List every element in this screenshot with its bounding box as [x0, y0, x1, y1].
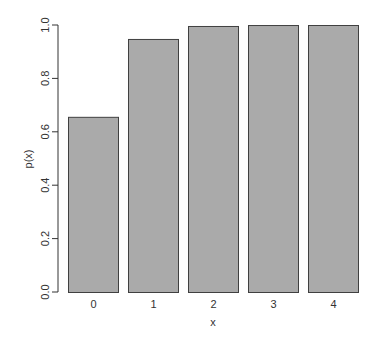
y-tick-label: 0.0 [39, 284, 51, 299]
x-tick-labels: 01234 [90, 298, 336, 310]
y-tick-label: 0.4 [39, 178, 51, 193]
y-tick-label: 1.0 [39, 17, 51, 32]
y-axis: 0.00.20.40.60.81.0 [39, 17, 58, 299]
y-tick-label: 0.8 [39, 71, 51, 86]
x-tick-label: 1 [150, 298, 156, 310]
bar-0 [69, 117, 119, 292]
x-tick-label: 3 [270, 298, 276, 310]
bars [69, 26, 359, 293]
x-tick-label: 4 [330, 298, 336, 310]
y-axis-label: p(x) [22, 150, 34, 169]
x-tick-label: 2 [210, 298, 216, 310]
x-axis-label: x [210, 316, 216, 328]
bar-chart: 0.00.20.40.60.81.0 01234 x p(x) [0, 0, 378, 342]
bar-1 [129, 39, 179, 292]
bar-3 [249, 26, 299, 293]
y-tick-label: 0.6 [39, 124, 51, 139]
x-tick-label: 0 [90, 298, 96, 310]
bar-2 [189, 26, 239, 292]
y-tick-label: 0.2 [39, 231, 51, 246]
bar-4 [309, 26, 359, 293]
